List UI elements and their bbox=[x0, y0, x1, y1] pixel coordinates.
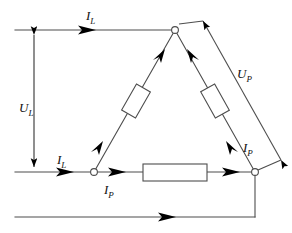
u-p-tick-top bbox=[179, 21, 203, 24]
label-u-l: UL bbox=[19, 101, 33, 118]
label-i-p-right: IP bbox=[243, 141, 253, 158]
resistor-left-branch bbox=[122, 84, 151, 118]
schematic-svg bbox=[0, 0, 292, 233]
label-i-p-bottom: IP bbox=[104, 183, 114, 200]
label-u-p: UP bbox=[237, 67, 252, 84]
node-bottom-left-vertex bbox=[91, 169, 98, 176]
current-arrowheads bbox=[56, 26, 240, 222]
label-i-l-bottom: IL bbox=[57, 153, 66, 170]
resistor-right-branch bbox=[201, 84, 230, 118]
arrowhead-left-branch-lower bbox=[91, 141, 103, 155]
resistor-bottom-branch bbox=[143, 164, 207, 181]
circuit-diagram-canvas: UL UP IL IL IP IP bbox=[0, 0, 292, 233]
label-i-l-top: IL bbox=[86, 9, 95, 26]
arrowhead-left-branch-upper bbox=[153, 49, 165, 63]
arrowhead-right-branch-lower bbox=[226, 141, 238, 155]
node-bottom-right-vertex bbox=[252, 169, 259, 176]
u-p-tick-bottom bbox=[258, 160, 281, 170]
node-top-vertex bbox=[172, 27, 179, 34]
